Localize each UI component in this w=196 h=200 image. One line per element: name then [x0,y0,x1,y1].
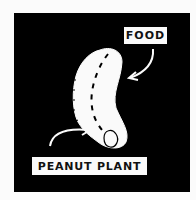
peanut-plant-label: PEANUT PLANT [32,157,147,175]
food-label: FOOD [124,27,167,44]
embryo-shape [104,131,118,148]
peanut-shape [73,49,127,149]
